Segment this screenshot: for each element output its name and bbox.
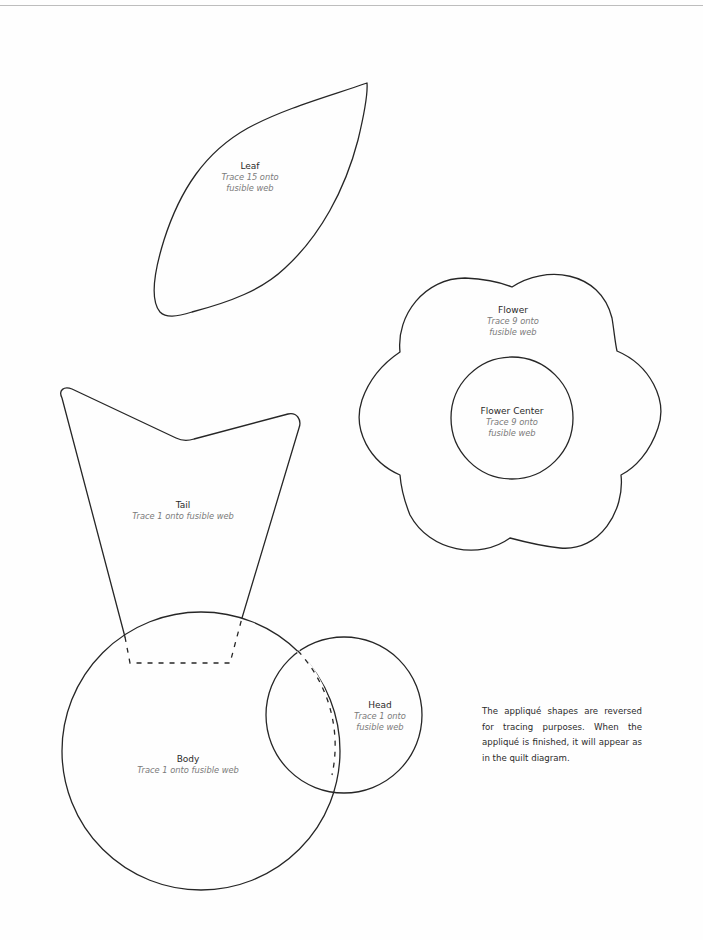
tail-template: Tail Trace 1 onto fusible web bbox=[61, 388, 300, 663]
tail-instruction: Trace 1 onto fusible web bbox=[132, 511, 234, 521]
leaf-instruction-line2: fusible web bbox=[226, 183, 273, 193]
body-instruction: Trace 1 onto fusible web bbox=[137, 765, 239, 775]
tail-label: Tail bbox=[175, 500, 191, 510]
flower-instruction-line1: Trace 9 onto bbox=[487, 316, 539, 326]
flower-center-instruction-line2: fusible web bbox=[488, 428, 535, 438]
body-label: Body bbox=[177, 754, 200, 764]
flower-label: Flower bbox=[498, 305, 528, 315]
head-template: Head Trace 1 onto fusible web bbox=[266, 637, 422, 797]
reversal-note: The appliqué shapes are reversed for tra… bbox=[482, 704, 642, 766]
leaf-outline bbox=[154, 83, 367, 316]
head-label: Head bbox=[368, 700, 392, 710]
pattern-page: Leaf Trace 15 onto fusible web Flower Tr… bbox=[0, 0, 703, 940]
flower-center-label: Flower Center bbox=[481, 406, 544, 416]
leaf-label: Leaf bbox=[240, 161, 260, 171]
applique-templates: Leaf Trace 15 onto fusible web Flower Tr… bbox=[0, 0, 703, 940]
flower-template: Flower Trace 9 onto fusible web Flower C… bbox=[359, 274, 661, 550]
leaf-instruction-line1: Trace 15 onto bbox=[221, 172, 278, 182]
leaf-template: Leaf Trace 15 onto fusible web bbox=[154, 83, 367, 316]
head-instruction-line2: fusible web bbox=[356, 722, 403, 732]
flower-center-instruction-line1: Trace 9 onto bbox=[486, 417, 538, 427]
flower-instruction-line2: fusible web bbox=[489, 327, 536, 337]
head-instruction-line1: Trace 1 onto bbox=[354, 711, 406, 721]
